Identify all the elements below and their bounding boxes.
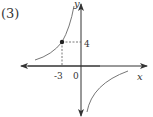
hyperbola-branch-lower-right: [87, 71, 128, 112]
problem-label: (3): [1, 6, 19, 21]
hyperbola-graph: (3) y x 0 -3 4: [0, 0, 153, 117]
x-tick-label: -3: [54, 71, 63, 81]
hyperbola-branch-upper-left: [35, 6, 74, 60]
y-tick-label: 4: [84, 39, 90, 49]
origin-label: 0: [73, 71, 79, 81]
y-axis-label: y: [73, 0, 80, 9]
x-axis-label: x: [137, 71, 143, 82]
point-marker: [60, 40, 64, 44]
